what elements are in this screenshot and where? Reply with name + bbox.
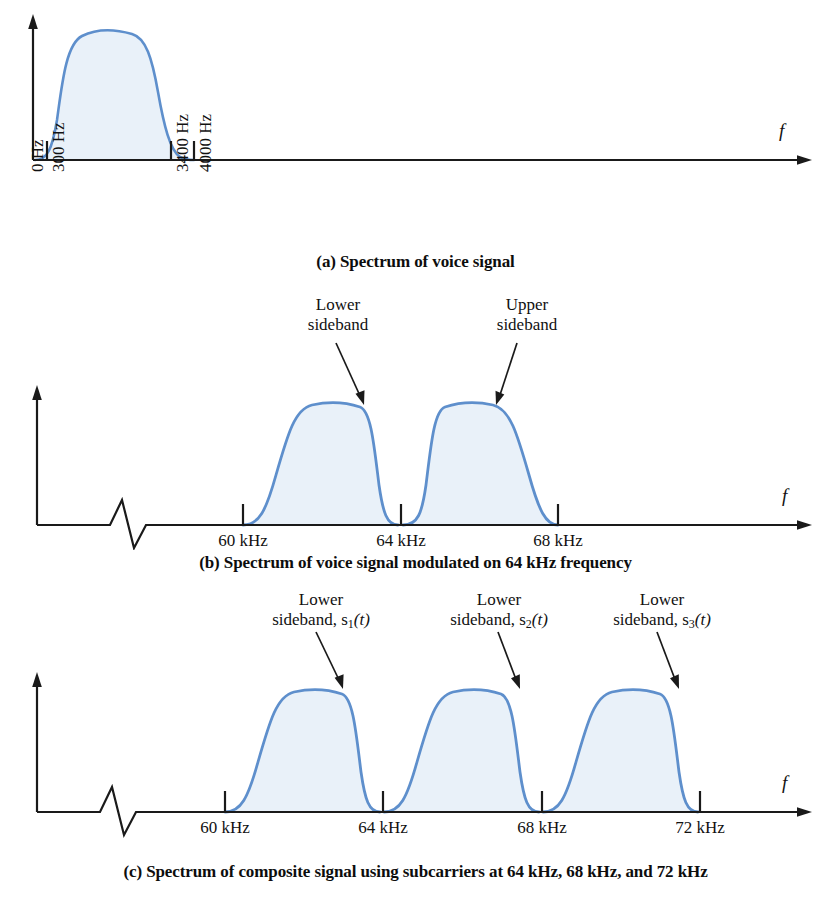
panel-b-axis-label-f: f bbox=[782, 485, 787, 507]
callout-sideband-s1-line1: Lower bbox=[246, 590, 396, 610]
callout-sideband-s1: Lower sideband, s1(t) bbox=[246, 590, 396, 632]
panel-a-y-axis-arrow bbox=[28, 14, 38, 29]
panel-a-axis-label-f: f bbox=[779, 120, 784, 142]
panel-a-voice-spectrum: 0 Hz 300 Hz 3400 Hz 4000 Hz f (a) Spectr… bbox=[0, 0, 831, 285]
callout-sideband-s3: Lower sideband, s3(t) bbox=[587, 590, 737, 632]
panel-c-ticklabel-72khz: 72 kHz bbox=[650, 818, 750, 838]
fdm-spectrum-figure: 0 Hz 300 Hz 3400 Hz 4000 Hz f (a) Spectr… bbox=[0, 0, 831, 904]
panel-c-y-axis-arrow bbox=[32, 672, 42, 687]
callout-sideband-s1-prefix: sideband, s bbox=[272, 610, 348, 629]
callout-sideband-s1-line2: sideband, s1(t) bbox=[246, 610, 396, 632]
callout-upper-sideband-line2: sideband bbox=[472, 315, 582, 335]
callout-lower-sideband-line2: sideband bbox=[283, 315, 393, 335]
panel-a-plot bbox=[0, 0, 831, 250]
panel-b-caption: (b) Spectrum of voice signal modulated o… bbox=[0, 553, 831, 573]
callout-lower-sideband-line1: Lower bbox=[283, 295, 393, 315]
panel-a-ticklabel-0hz: 0 Hz bbox=[28, 139, 48, 172]
sideband-s3-leader-line bbox=[657, 632, 676, 682]
callout-upper-sideband-line1: Upper bbox=[472, 295, 582, 315]
panel-a-ticklabel-3400hz: 3400 Hz bbox=[173, 114, 193, 172]
callout-lower-sideband: Lower sideband bbox=[283, 295, 393, 335]
panel-b-ticklabel-60khz: 60 kHz bbox=[193, 531, 293, 551]
sideband-s1-leader-line bbox=[316, 632, 340, 682]
panel-c-x-axis-arrow bbox=[797, 807, 812, 817]
panel-c-composite-spectrum: Lower sideband, s1(t) Lower sideband, s2… bbox=[0, 590, 831, 904]
upper-sideband-leader-arrow bbox=[496, 391, 505, 405]
panel-c-ticklabel-60khz: 60 kHz bbox=[175, 818, 275, 838]
panel-b-ticklabel-64khz: 64 kHz bbox=[351, 531, 451, 551]
callout-sideband-s3-line2: sideband, s3(t) bbox=[587, 610, 737, 632]
panel-a-caption: (a) Spectrum of voice signal bbox=[0, 252, 831, 272]
panel-b-x-axis-arrow bbox=[797, 520, 812, 530]
sideband-s3-leader-arrow bbox=[670, 674, 679, 689]
sideband-s2-leader-arrow bbox=[511, 674, 520, 689]
panel-b-plot bbox=[0, 285, 831, 550]
panel-a-ticklabel-300hz: 300 Hz bbox=[49, 122, 69, 172]
callout-sideband-s3-suffix: (t) bbox=[695, 610, 711, 629]
panel-b-y-axis-arrow bbox=[32, 385, 42, 400]
upper-sideband-leader-line bbox=[499, 343, 517, 398]
panel-c-caption: (c) Spectrum of composite signal using s… bbox=[0, 862, 831, 882]
panel-a-ticklabel-4000hz: 4000 Hz bbox=[196, 114, 216, 172]
panel-a-x-axis-arrow bbox=[797, 155, 812, 165]
panel-b-modulated-spectrum: Lower sideband Upper sideband 60 kHz 64 … bbox=[0, 285, 831, 590]
lower-sideband-leader-line bbox=[336, 343, 361, 398]
sideband-s2-leader-line bbox=[498, 632, 517, 682]
upper-sideband-area bbox=[403, 403, 558, 525]
callout-sideband-s1-suffix: (t) bbox=[354, 610, 370, 629]
callout-sideband-s2-line1: Lower bbox=[424, 590, 574, 610]
panel-c-ticklabel-64khz: 64 kHz bbox=[333, 818, 433, 838]
callout-sideband-s2-line2: sideband, s2(t) bbox=[424, 610, 574, 632]
lower-sideband-leader-arrow bbox=[356, 390, 365, 405]
callout-sideband-s3-line1: Lower bbox=[587, 590, 737, 610]
panel-c-ticklabel-68khz: 68 kHz bbox=[492, 818, 592, 838]
panel-b-ticklabel-68khz: 68 kHz bbox=[508, 531, 608, 551]
callout-sideband-s2-prefix: sideband, s bbox=[450, 610, 526, 629]
callout-upper-sideband: Upper sideband bbox=[472, 295, 582, 335]
callout-sideband-s2: Lower sideband, s2(t) bbox=[424, 590, 574, 632]
callout-sideband-s2-suffix: (t) bbox=[532, 610, 548, 629]
panel-c-axis-label-f: f bbox=[782, 772, 787, 794]
callout-sideband-s3-prefix: sideband, s bbox=[613, 610, 689, 629]
sideband-s1-leader-arrow bbox=[335, 674, 344, 689]
